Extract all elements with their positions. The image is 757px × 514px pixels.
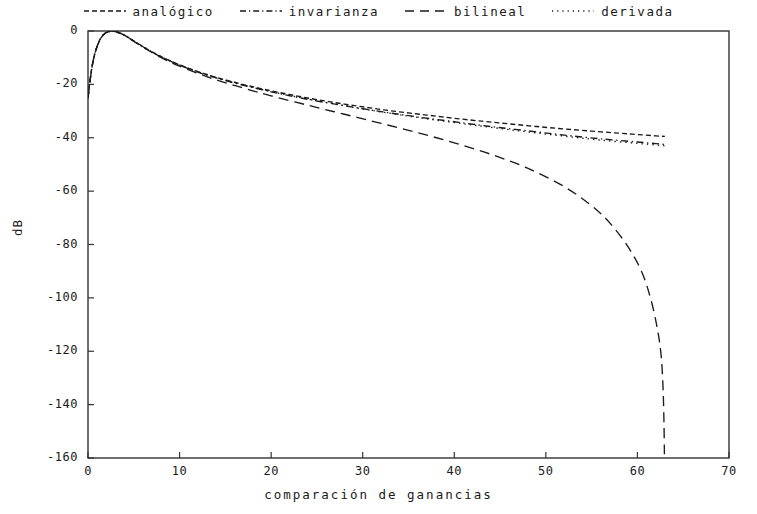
- series-line-0: [88, 31, 665, 136]
- legend-label-derivada: derivada: [601, 4, 673, 19]
- x-tick-label: 10: [160, 464, 200, 478]
- legend-swatch-dashed: [84, 6, 126, 16]
- y-tick-label: -140: [30, 397, 78, 411]
- x-tick-label: 20: [251, 464, 291, 478]
- x-axis-title: comparación de ganancias: [0, 487, 757, 502]
- y-tick-label: -160: [30, 450, 78, 464]
- y-axis-title: dB: [10, 219, 25, 236]
- x-tick-label: 40: [434, 464, 474, 478]
- x-tick-label: 0: [68, 464, 108, 478]
- series-line-1: [88, 31, 665, 144]
- x-tick-label: 50: [526, 464, 566, 478]
- legend-item-invarianza: invarianza: [240, 4, 379, 19]
- legend-label-invarianza: invarianza: [289, 4, 379, 19]
- y-tick-label: -40: [30, 130, 78, 144]
- y-tick-label: 0: [30, 23, 78, 37]
- legend-item-derivada: derivada: [552, 4, 673, 19]
- x-tick-label: 30: [343, 464, 383, 478]
- chart-legend: analógico invarianza bilineal: [0, 0, 757, 22]
- series-line-3: [88, 31, 665, 146]
- legend-item-bilineal: bilineal: [405, 4, 526, 19]
- plot-area: [0, 0, 757, 514]
- y-tick-label: -100: [30, 290, 78, 304]
- y-tick-label: -120: [30, 343, 78, 357]
- series-line-2: [88, 31, 664, 458]
- chart-figure: analógico invarianza bilineal: [0, 0, 757, 514]
- x-tick-label: 70: [709, 464, 749, 478]
- plot-frame: [88, 31, 729, 458]
- series-layer: [88, 31, 665, 458]
- x-tick-label: 60: [617, 464, 657, 478]
- legend-label-bilineal: bilineal: [454, 4, 526, 19]
- legend-label-analogico: analógico: [133, 4, 214, 19]
- legend-swatch-dashdot: [240, 6, 282, 16]
- legend-swatch-longdash: [405, 6, 447, 16]
- legend-item-analogico: analógico: [84, 4, 214, 19]
- y-tick-label: -60: [30, 183, 78, 197]
- y-tick-label: -80: [30, 237, 78, 251]
- y-tick-label: -20: [30, 76, 78, 90]
- legend-swatch-dotted: [552, 6, 594, 16]
